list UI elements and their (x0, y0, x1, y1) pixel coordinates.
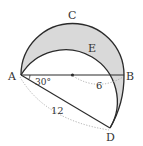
label-B: B (126, 70, 134, 83)
label-C: C (68, 9, 76, 22)
label-radius: 6 (96, 80, 102, 91)
label-AD-length: 12 (51, 105, 64, 116)
geometry-diagram: A B C E D 30° 6 12 (0, 0, 143, 146)
label-D: D (106, 131, 115, 144)
label-A: A (7, 70, 17, 83)
angle-arc (29, 75, 30, 80)
label-angle: 30° (35, 77, 51, 87)
label-E: E (88, 42, 96, 55)
